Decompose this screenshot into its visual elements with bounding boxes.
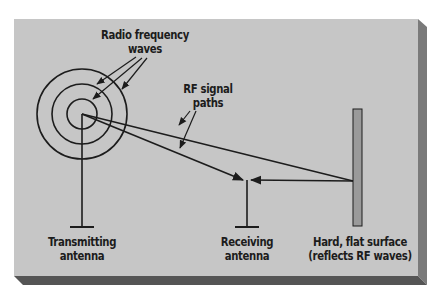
rf-paths-label: RF signal paths [173, 82, 243, 110]
receiving-antenna-label: Receiving antenna [212, 235, 282, 263]
panel-shadow-right [418, 19, 427, 285]
reflected-path [251, 180, 353, 181]
transmitting-antenna-label: Transmitting antenna [42, 235, 121, 263]
panel-shadow-bottom [14, 276, 427, 285]
rf-multipath-diagram: Radio frequency waves RF signal paths Tr… [0, 0, 439, 300]
reflective-surface-icon [353, 109, 362, 226]
radio-waves-label: Radio frequency waves [97, 28, 194, 56]
reflective-surface-label: Hard, flat surface (reflects RF waves) [305, 235, 414, 263]
